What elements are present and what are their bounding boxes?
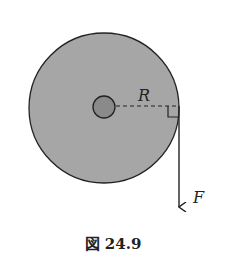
figure: R F 図 24.9 [0, 0, 227, 273]
radius-label: R [137, 86, 150, 105]
figure-caption: 図 24.9 [85, 235, 142, 253]
hub [93, 96, 115, 118]
force-label: F [192, 188, 205, 207]
